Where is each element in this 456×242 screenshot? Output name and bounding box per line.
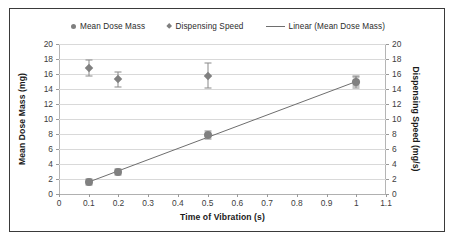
y-axis-right-tick-label: 16 [392, 69, 401, 79]
trendline [59, 44, 386, 194]
y-axis-right-tick-label: 20 [392, 39, 401, 49]
y-axis-right-tick-mark [386, 59, 389, 60]
x-axis-title: Time of Vibration (s) [59, 212, 386, 222]
legend-label-linear-trendline: Linear (Mean Dose Mass) [289, 22, 386, 31]
error-bar-cap [204, 88, 211, 89]
x-axis-tick-mark [327, 194, 328, 197]
error-bar-cap [85, 76, 92, 77]
y-axis-right-tick-label: 0 [392, 189, 397, 199]
error-bar-cap [85, 59, 92, 60]
chart-legend: Mean Dose Mass Dispensing Speed Linear (… [10, 17, 446, 35]
y-axis-left-tick-label: 20 [44, 39, 53, 49]
y-axis-right-tick-label: 10 [392, 114, 401, 124]
y-axis-right-tick-mark [386, 164, 389, 165]
y-axis-right-tick-label: 8 [392, 129, 397, 139]
circle-marker-icon [71, 24, 76, 29]
data-point-marker [114, 168, 122, 176]
x-axis-tick-mark [386, 194, 387, 197]
x-axis-tick-mark [178, 194, 179, 197]
y-axis-right-tick-label: 4 [392, 159, 397, 169]
gridline [59, 194, 386, 195]
legend-label-dispensing-speed: Dispensing Speed [175, 22, 243, 31]
y-axis-title-right: Dispensing Speed (mg/s) [410, 44, 422, 194]
data-point-marker [85, 178, 93, 186]
trendline-segment [89, 82, 357, 183]
y-axis-right-tick-mark [386, 104, 389, 105]
line-marker-icon [266, 26, 285, 27]
x-axis-tick-mark [356, 194, 357, 197]
y-axis-right-tick-mark [386, 74, 389, 75]
y-axis-left-tick-label: 16 [44, 69, 53, 79]
y-axis-left-tick-label: 12 [44, 99, 53, 109]
x-axis-tick-label: 0.8 [291, 198, 303, 208]
error-bar-cap [115, 86, 122, 87]
y-axis-left-tick-label: 8 [48, 129, 53, 139]
x-axis-tick-mark [237, 194, 238, 197]
y-axis-right-tick-label: 6 [392, 144, 397, 154]
plot-area: 02468101214161820 02468101214161820 00.1… [59, 44, 386, 194]
y-axis-left-tick-label: 2 [48, 174, 53, 184]
x-axis-tick-mark [118, 194, 119, 197]
y-axis-right-tick-label: 12 [392, 99, 401, 109]
x-axis-tick-mark [59, 194, 60, 197]
y-axis-title-left: Mean Dose Mass (mg) [16, 44, 28, 194]
y-axis-left-tick-label: 4 [48, 159, 53, 169]
x-axis-tick-label: 0.7 [261, 198, 273, 208]
x-axis-tick-label: 0.5 [202, 198, 214, 208]
y-axis-right-tick-label: 14 [392, 84, 401, 94]
x-axis-tick-label: 0.6 [232, 198, 244, 208]
y-axis-right-tick-label: 18 [392, 54, 401, 64]
x-axis-tick-label: 0.2 [113, 198, 125, 208]
y-axis-left-tick-label: 6 [48, 144, 53, 154]
diamond-marker-icon [166, 23, 172, 29]
y-axis-left-tick-label: 0 [48, 189, 53, 199]
x-axis-tick-label: 0.4 [172, 198, 184, 208]
x-axis-tick-label: 0.3 [142, 198, 154, 208]
y-axis-left-tick-label: 10 [44, 114, 53, 124]
x-axis-tick-label: 0.9 [321, 198, 333, 208]
legend-item-linear-trendline: Linear (Mean Dose Mass) [266, 22, 386, 31]
x-axis-tick-mark [267, 194, 268, 197]
y-axis-right-tick-mark [386, 89, 389, 90]
x-axis-tick-label: 0 [57, 198, 62, 208]
y-axis-right-tick-mark [386, 44, 389, 45]
x-axis-tick-label: 1 [354, 198, 359, 208]
chart-figure: Mean Dose Mass Dispensing Speed Linear (… [0, 0, 456, 242]
legend-item-mean-dose-mass: Mean Dose Mass [71, 22, 145, 31]
error-bar-cap [353, 75, 360, 76]
error-bar-cap [353, 87, 360, 88]
x-axis-tick-mark [208, 194, 209, 197]
y-axis-right-tick-mark [386, 134, 389, 135]
legend-item-dispensing-speed: Dispensing Speed [167, 22, 243, 31]
data-point-marker [204, 131, 212, 139]
y-axis-right-tick-mark [386, 119, 389, 120]
y-axis-left-tick-label: 14 [44, 84, 53, 94]
y-axis-left-tick-label: 18 [44, 54, 53, 64]
error-bar-cap [204, 62, 211, 63]
y-axis-right-tick-label: 2 [392, 174, 397, 184]
y-axis-right-tick-mark [386, 149, 389, 150]
x-axis-tick-mark [297, 194, 298, 197]
x-axis-tick-label: 1.1 [380, 198, 392, 208]
x-axis-tick-mark [148, 194, 149, 197]
error-bar-cap [115, 71, 122, 72]
x-axis-tick-label: 0.1 [83, 198, 95, 208]
chart-frame: Mean Dose Mass Dispensing Speed Linear (… [9, 8, 445, 232]
x-axis-tick-mark [89, 194, 90, 197]
y-axis-right-tick-mark [386, 179, 389, 180]
legend-label-mean-dose-mass: Mean Dose Mass [80, 22, 145, 31]
